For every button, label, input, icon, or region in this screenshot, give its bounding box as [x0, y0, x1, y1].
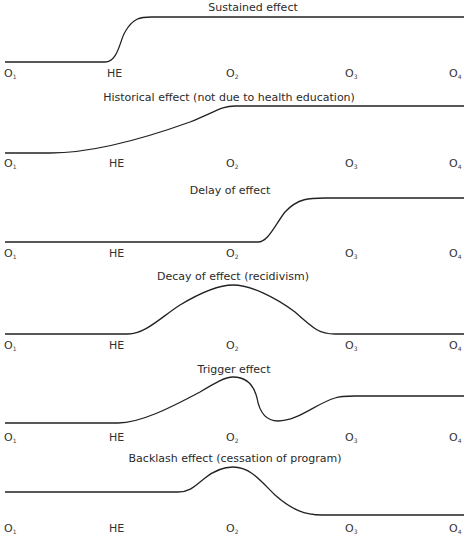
label-o2: O2	[226, 522, 239, 535]
label-o4: O4	[449, 247, 462, 260]
label-o2: O2	[226, 247, 239, 260]
label-o4: O4	[449, 157, 462, 170]
effect-curve	[5, 17, 464, 62]
panel-title: Delay of effect	[190, 184, 271, 197]
label-he: HE	[109, 431, 124, 444]
axis-labels: O1 HE O2 O3 O4	[4, 522, 462, 535]
effect-curve	[5, 106, 464, 153]
label-o4: O4	[449, 522, 462, 535]
effect-curve	[5, 377, 464, 423]
label-o3: O3	[345, 247, 358, 260]
axis-labels: O1 HE O2 O3 O4	[4, 431, 462, 444]
panel-delay-of-effect: Delay of effect O1 HE O2 O3 O4	[4, 184, 464, 260]
label-o1: O1	[4, 157, 17, 170]
axis-labels: O1 HE O2 O3 O4	[4, 157, 462, 170]
label-he: HE	[107, 67, 122, 80]
label-o4: O4	[449, 339, 462, 352]
label-o2: O2	[226, 67, 239, 80]
label-he: HE	[109, 247, 124, 260]
label-o2: O2	[226, 431, 239, 444]
label-o1: O1	[4, 431, 17, 444]
axis-labels: O1 HE O2 O3 O4	[4, 247, 462, 260]
panel-title: Trigger effect	[197, 363, 272, 376]
panel-historical-effect: Historical effect (not due to health edu…	[4, 91, 464, 170]
label-o2: O2	[226, 157, 239, 170]
effect-curve	[5, 285, 464, 334]
panel-title: Decay of effect (recidivism)	[157, 270, 309, 283]
panel-title: Backlash effect (cessation of program)	[129, 452, 342, 465]
label-he: HE	[109, 339, 124, 352]
evaluation-effects-diagram: Sustained effect O1 HE O2 O3 O4 Historic…	[0, 0, 466, 546]
label-o3: O3	[345, 431, 358, 444]
label-o3: O3	[345, 67, 358, 80]
panel-trigger-effect: Trigger effect O1 HE O2 O3 O4	[4, 363, 464, 444]
label-o4: O4	[449, 67, 462, 80]
label-o3: O3	[345, 339, 358, 352]
label-o1: O1	[4, 522, 17, 535]
label-o1: O1	[4, 247, 17, 260]
label-o3: O3	[345, 522, 358, 535]
label-o1: O1	[4, 67, 17, 80]
axis-labels: O1 HE O2 O3 O4	[4, 339, 462, 352]
effect-curve	[5, 467, 464, 515]
panel-backlash-effect: Backlash effect (cessation of program) O…	[4, 452, 464, 535]
label-o1: O1	[4, 339, 17, 352]
panel-title: Historical effect (not due to health edu…	[103, 91, 355, 104]
label-o3: O3	[345, 157, 358, 170]
label-o2: O2	[226, 339, 239, 352]
axis-labels: O1 HE O2 O3 O4	[4, 67, 462, 80]
label-he: HE	[109, 157, 124, 170]
panel-sustained-effect: Sustained effect O1 HE O2 O3 O4	[4, 1, 464, 80]
label-he: HE	[109, 522, 124, 535]
panel-decay-of-effect: Decay of effect (recidivism) O1 HE O2 O3…	[4, 270, 464, 352]
label-o4: O4	[449, 431, 462, 444]
effect-curve	[5, 198, 464, 242]
panel-title: Sustained effect	[208, 1, 298, 14]
